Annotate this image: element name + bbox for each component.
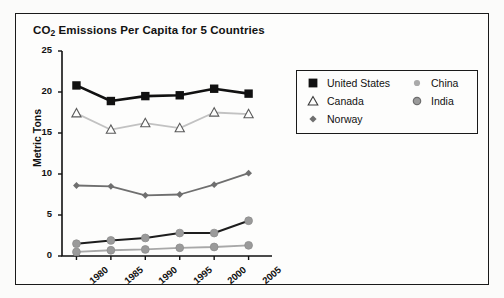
y-tick-label: 25 <box>30 44 52 55</box>
legend-label: Norway <box>327 113 363 125</box>
legend-label: India <box>431 95 454 107</box>
chart-title-rest: Emissions Per Capita for 5 Countries <box>55 24 264 36</box>
filled-square-icon <box>307 77 319 89</box>
y-tick-label: 0 <box>30 249 52 260</box>
chart-title: CO2 Emissions Per Capita for 5 Countries <box>33 24 265 36</box>
ring-circle-icon <box>411 95 423 107</box>
chart-title-subscript: 2 <box>50 28 55 38</box>
legend-entry-canada[interactable]: Canada <box>307 95 364 107</box>
legend-entry-united-states[interactable]: United States <box>307 77 390 89</box>
page-background: CO2 Emissions Per Capita for 5 Countries… <box>0 0 504 298</box>
legend-label: United States <box>327 77 390 89</box>
chart-title-main: CO <box>33 24 50 36</box>
y-tick-label: 5 <box>30 208 52 219</box>
y-tick-label: 10 <box>30 167 52 178</box>
legend-label: Canada <box>327 95 364 107</box>
y-tick-label: 15 <box>30 126 52 137</box>
open-triangle-icon <box>307 95 319 107</box>
legend-label: China <box>431 77 458 89</box>
chart-legend: United StatesCanadaNorwayChinaIndia <box>296 70 478 134</box>
legend-entry-china[interactable]: China <box>411 77 458 89</box>
diamond-icon <box>307 113 319 125</box>
y-tick-label: 20 <box>30 85 52 96</box>
small-circle-icon <box>411 77 423 89</box>
legend-entry-norway[interactable]: Norway <box>307 113 363 125</box>
chart-frame <box>15 13 489 285</box>
legend-entry-india[interactable]: India <box>411 95 454 107</box>
